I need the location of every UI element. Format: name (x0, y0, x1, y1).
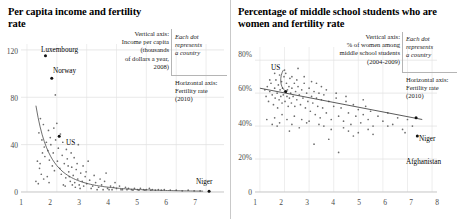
annotation-vertical-axis-left: Vertical axis: Income per capita (thousa… (106, 30, 169, 71)
annotation-each-dot-right: Each dot represents a country (406, 35, 458, 60)
annotation-each-dot-left: Each dot represents a country (175, 33, 227, 58)
panel-middle-school-women: Percentage of middle school students who… (230, 0, 459, 219)
annotation-vertical-axis-right: Vertical axis: % of women among middle s… (312, 33, 400, 66)
point-label-norway: Norway (53, 67, 76, 75)
panel-per-capita-income: Per capita income and fertility rate 120… (0, 0, 229, 219)
point-label-afghanistan-right: Afghanistan (406, 158, 441, 166)
point-label-luxembourg: Luxembourg (41, 46, 78, 54)
point-label-niger-right: Niger (419, 135, 435, 143)
point-label-us-left: US (66, 139, 75, 147)
point-label-us-right: US (271, 64, 280, 72)
annotation-separator-horizontal-left (171, 75, 227, 76)
annotation-separator-horizontal-right (402, 72, 457, 73)
annotation-horizontal-axis-left: Horizontal axis: Fertility rate (2010) (175, 79, 231, 104)
annotation-horizontal-axis-right: Horizontal axis: Fertility rate (2010) (406, 76, 459, 101)
annotation-separator-vertical-left (171, 29, 172, 75)
annotation-separator-vertical-right (402, 32, 403, 72)
point-label-niger-left: Niger (196, 178, 212, 186)
